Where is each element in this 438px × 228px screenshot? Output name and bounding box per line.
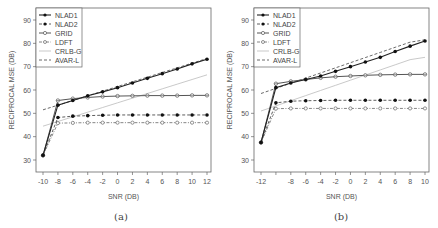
legend-label: NLAD2 [55, 21, 78, 28]
legend-label: GRID [55, 30, 73, 37]
series-nlad2 [41, 113, 209, 157]
y-tick-label: 70 [23, 63, 31, 70]
chart-a: 30405060708090-10-8-6-4-2024681012SNR (D… [8, 8, 211, 222]
y-tick-label: 80 [23, 40, 31, 47]
x-tick-label: -6 [70, 178, 76, 185]
y-axis-label: RECIPROCAL MSE (DB) [8, 51, 16, 130]
x-tick-label: 8 [175, 178, 179, 185]
y-tick-label: 30 [23, 157, 31, 164]
series-ldft [41, 121, 208, 157]
x-tick-label: 4 [145, 178, 149, 185]
x-tick-label: 10 [421, 178, 429, 185]
series-nlad1 [41, 57, 209, 157]
figure: 30405060708090-10-8-6-4-2024681012SNR (D… [0, 0, 438, 228]
legend-label: NLAD1 [55, 12, 78, 19]
y-tick-label: 80 [241, 40, 249, 47]
x-tick-label: -2 [332, 178, 338, 185]
x-tick-label: -4 [85, 178, 91, 185]
x-tick-label: 6 [160, 178, 164, 185]
legend-label: NLAD1 [273, 12, 296, 19]
x-tick-label: 0 [116, 178, 120, 185]
x-tick-label: -12 [256, 178, 266, 185]
legend-label: AVAR-L [55, 57, 79, 64]
figure-caption: (a) [114, 211, 128, 222]
x-tick-label: -8 [288, 178, 294, 185]
x-tick-label: 2 [131, 178, 135, 185]
x-tick-label: 12 [203, 178, 211, 185]
x-axis-label: SNR (DB) [108, 193, 139, 201]
x-tick-label: -8 [55, 178, 61, 185]
x-tick-label: -4 [318, 178, 324, 185]
y-tick-label: 40 [23, 133, 31, 140]
legend: NLAD1NLAD2GRIDLDFTCRLB-GAVAR-L [254, 8, 300, 67]
legend-label: LDFT [273, 39, 291, 46]
legend-label: LDFT [55, 39, 73, 46]
legend: NLAD1NLAD2GRIDLDFTCRLB-GAVAR-L [36, 8, 82, 67]
figure-caption: (b) [334, 211, 348, 222]
y-tick-label: 60 [23, 87, 31, 94]
y-tick-label: 70 [241, 63, 249, 70]
y-tick-label: 90 [23, 17, 31, 24]
series-ldft [259, 107, 426, 144]
chart-b: 30405060708090-12-8-6-4-20246810SNR (DB)… [226, 8, 429, 222]
x-tick-label: 8 [408, 178, 412, 185]
y-tick-label: 60 [241, 87, 249, 94]
y-tick-label: 30 [241, 157, 249, 164]
legend-label: AVAR-L [273, 57, 297, 64]
y-tick-label: 90 [241, 17, 249, 24]
series-nlad2 [259, 98, 427, 144]
y-tick-label: 50 [23, 110, 31, 117]
y-axis-label: RECIPROCAL MSE (DB) [226, 51, 234, 130]
series-crlb-g [43, 75, 207, 126]
x-tick-label: 10 [188, 178, 196, 185]
x-tick-label: 4 [378, 178, 382, 185]
legend-label: CRLB-G [273, 48, 299, 55]
x-tick-label: -10 [38, 178, 48, 185]
series-grid [41, 94, 208, 157]
legend-label: GRID [273, 30, 291, 37]
legend-label: NLAD2 [273, 21, 296, 28]
x-axis-label: SNR (DB) [326, 193, 357, 201]
x-tick-label: 6 [393, 178, 397, 185]
x-tick-label: 0 [349, 178, 353, 185]
y-tick-label: 40 [241, 133, 249, 140]
y-tick-label: 50 [241, 110, 249, 117]
x-tick-label: -2 [100, 178, 106, 185]
x-tick-label: -6 [303, 178, 309, 185]
legend-label: CRLB-G [55, 48, 81, 55]
x-tick-label: 2 [363, 178, 367, 185]
